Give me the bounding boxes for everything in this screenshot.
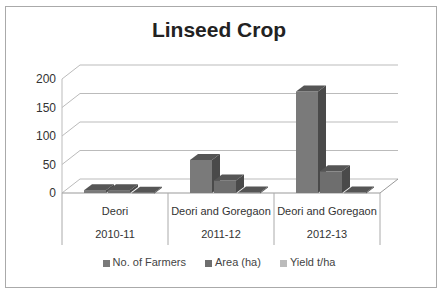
svg-text:2011-12: 2011-12 bbox=[201, 228, 241, 240]
svg-text:Deori and Goregaon: Deori and Goregaon bbox=[277, 205, 377, 217]
bars bbox=[84, 86, 374, 194]
svg-text:50: 50 bbox=[43, 158, 57, 172]
legend-item-area: Area (ha) bbox=[205, 256, 261, 268]
svg-text:Deori and Goregaon: Deori and Goregaon bbox=[171, 205, 271, 217]
chart-plot: 050100150200Deori2010-11Deori and Gorega… bbox=[0, 0, 438, 292]
svg-text:2010-11: 2010-11 bbox=[95, 228, 135, 240]
svg-text:Deori: Deori bbox=[102, 205, 128, 217]
svg-text:2012-13: 2012-13 bbox=[307, 228, 347, 240]
svg-text:0: 0 bbox=[49, 186, 56, 200]
legend-item-farmers: No. of Farmers bbox=[103, 256, 186, 268]
svg-text:200: 200 bbox=[36, 72, 56, 86]
svg-text:100: 100 bbox=[36, 129, 56, 143]
legend: No. of Farmers Area (ha) Yield t/ha bbox=[0, 256, 438, 268]
svg-text:150: 150 bbox=[36, 101, 56, 115]
legend-item-yield: Yield t/ha bbox=[280, 256, 335, 268]
